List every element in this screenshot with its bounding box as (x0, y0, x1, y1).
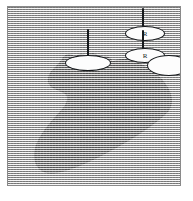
plate-frame: R R (7, 6, 181, 186)
pin-head-plain[interactable] (147, 55, 181, 76)
pin-marker-left[interactable] (65, 29, 111, 71)
figure-root: R R (0, 0, 193, 201)
pin-marker-plain[interactable] (147, 55, 181, 77)
pin-head-left[interactable] (65, 55, 111, 71)
